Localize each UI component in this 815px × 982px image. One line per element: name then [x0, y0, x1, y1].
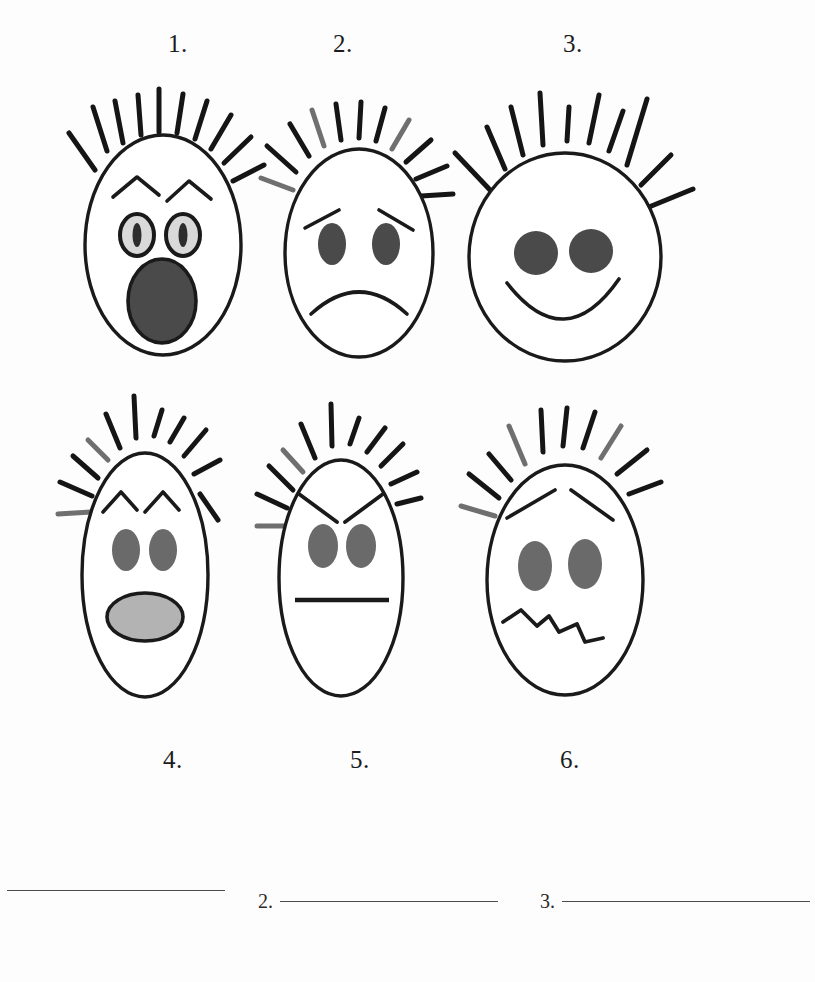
answer-line-1[interactable]	[0, 890, 225, 891]
answer-line-2[interactable]: 2.	[258, 890, 498, 913]
answer-lines-row: 2. 3.	[0, 890, 815, 940]
face-number-label-6: 6.	[560, 746, 580, 774]
face-4-shocked	[48, 390, 263, 700]
face-4-mouth	[107, 593, 183, 641]
face-4-head	[82, 453, 208, 697]
answer-line-3-rule[interactable]	[562, 901, 810, 902]
face-6-worried	[445, 398, 695, 698]
face-3-head	[469, 153, 661, 361]
face-3-happy	[443, 85, 708, 365]
face-1-mouth	[128, 259, 196, 343]
face-6-drawing	[445, 398, 695, 698]
face-number-label-5: 5.	[350, 746, 370, 774]
face-number-label-1: 1.	[168, 30, 188, 58]
face-2-head	[285, 149, 433, 357]
face-1-drawing	[55, 85, 285, 365]
face-3-drawing	[443, 85, 708, 365]
answer-line-2-rule[interactable]	[280, 901, 498, 902]
face-number-label-2: 2.	[333, 30, 353, 58]
answer-line-1-rule[interactable]	[7, 890, 225, 891]
face-number-label-4: 4.	[163, 746, 183, 774]
face-number-label-3: 3.	[563, 30, 583, 58]
face-6-head	[487, 465, 643, 695]
worksheet-page: 1. 2. 3.	[0, 0, 815, 982]
answer-line-2-number: 2.	[258, 890, 273, 913]
face-1-surprised	[55, 85, 285, 365]
face-5-head	[279, 460, 403, 696]
answer-line-3[interactable]: 3.	[540, 890, 810, 913]
face-5-angry	[245, 398, 460, 698]
answer-line-3-number: 3.	[540, 890, 555, 913]
face-5-drawing	[245, 398, 460, 698]
face-4-drawing	[48, 390, 263, 700]
